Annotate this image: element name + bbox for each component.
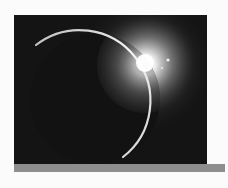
flare-core [136, 54, 154, 72]
eclipse-photo [14, 15, 207, 164]
page-canvas [0, 0, 228, 188]
footer-bar [14, 164, 225, 172]
star-point [166, 58, 169, 61]
eclipse-illustration [14, 15, 207, 164]
star-point [161, 67, 163, 69]
